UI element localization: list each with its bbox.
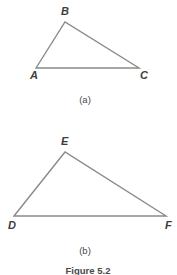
vertex-label-e: E [61, 135, 69, 147]
part-caption-a: (a) [79, 94, 91, 105]
vertex-label-b: B [61, 5, 69, 17]
triangle-def-outline [14, 152, 166, 216]
vertex-label-a: A [29, 69, 38, 81]
triangle-abc-outline [36, 22, 139, 68]
vertex-label-d: D [8, 219, 16, 231]
part-caption-b: (b) [79, 245, 91, 256]
geometry-figure: A B C (a) D E F (b) Figure 5.2 [0, 0, 177, 275]
figure-caption: Figure 5.2 [66, 265, 111, 275]
figure-canvas: A B C (a) D E F (b) Figure 5.2 [0, 0, 177, 275]
vertex-label-c: C [140, 69, 149, 81]
triangle-abc-group: A B C [29, 5, 149, 81]
vertex-label-f: F [165, 219, 172, 231]
triangle-def-group: D E F [8, 135, 172, 231]
